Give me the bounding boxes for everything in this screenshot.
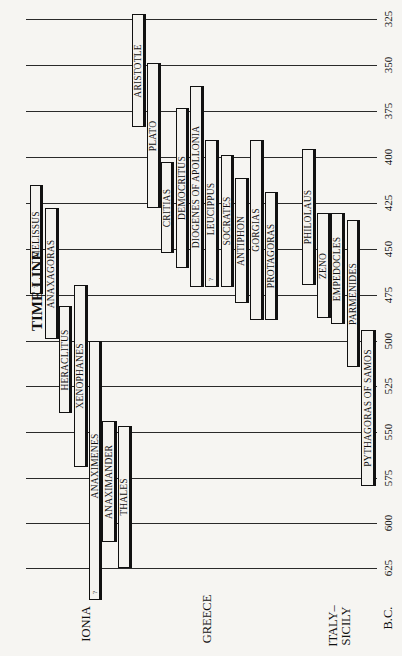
gridline (26, 568, 377, 569)
philosopher-bar: GORGIAS (250, 140, 264, 320)
philosopher-name: ANAXIMENES (90, 433, 100, 498)
year-tick-label: 550 (381, 417, 395, 447)
gridline (26, 523, 377, 524)
axis-unit-label: B.C. (382, 603, 396, 633)
year-tick-label: 475 (381, 280, 395, 310)
philosopher-bar: PLATO (147, 63, 161, 208)
philosopher-bar: PARMENIDES (347, 220, 360, 367)
philosopher-name: PARMENIDES (348, 263, 358, 325)
philosopher-name: PHILOLAUS (303, 190, 313, 245)
philosopher-bar: ARISTOTLE (132, 14, 146, 127)
philosopher-name: ARISTOTLE (133, 44, 143, 97)
philosopher-bar: HERACLITUS (59, 306, 72, 413)
philosopher-bar: DIOGENES OF APOLLONIA (190, 86, 204, 287)
philosopher-name: CRITIAS (162, 188, 172, 226)
gridline (26, 19, 377, 20)
gridline (26, 478, 377, 479)
year-tick-label: 500 (381, 326, 395, 356)
year-tick-label: 525 (381, 371, 395, 401)
philosopher-bar: DEMOCRITUS (176, 108, 189, 268)
philosopher-name: ANTIPHON (236, 215, 246, 265)
philosopher-name: PROTAGORAS (266, 224, 276, 289)
year-tick-label: 400 (381, 142, 395, 172)
philosopher-name: GORGIAS (251, 208, 261, 252)
philosopher-name: SOCRATES (222, 196, 232, 245)
philosopher-name: THALES (119, 478, 129, 516)
year-tick-label: 425 (381, 188, 395, 218)
philosopher-bar: THALES (118, 426, 132, 568)
philosopher-bar: CRITIAS (161, 162, 174, 253)
region-label-ionia: IONIA (80, 599, 94, 649)
philosopher-bar: PROTAGORAS (265, 192, 278, 320)
philosopher-name: ZENO (318, 252, 328, 278)
philosopher-bar: ANAXAGORAS (45, 208, 59, 339)
philosopher-name: DIOGENES OF APOLLONIA (191, 125, 201, 247)
region-label-greece: GREECE (201, 591, 215, 647)
philosopher-bar: PYTHAGORAS OF SAMOS (361, 330, 376, 486)
year-tick-label: 350 (381, 50, 395, 80)
timeline-diagram: 325350375400425450475500525550575600625 … (0, 0, 402, 656)
year-tick-label: 575 (381, 463, 395, 493)
philosopher-name: DEMOCRITUS (177, 156, 187, 220)
gridline (26, 65, 377, 66)
philosopher-bar: ANAXIMANDER (102, 421, 117, 542)
region-label-italy-sicily: ITALY– SICILY (327, 598, 355, 654)
year-tick-label: 625 (381, 553, 395, 583)
philosopher-name: XENOPHANES (75, 343, 85, 408)
year-tick-label: 450 (381, 234, 395, 264)
philosopher-name: PLATO (148, 120, 158, 150)
uncertain-date-marker: ? (208, 278, 215, 281)
philosopher-name: ANAXIMANDER (104, 445, 114, 519)
philosopher-name: EMPEDOCLES (332, 236, 342, 300)
philosopher-name: LEUCIPPUS (206, 182, 216, 234)
philosopher-bar: SOCRATES (221, 155, 234, 287)
year-tick-label: 600 (381, 508, 395, 538)
philosopher-name: HERACLITUS (60, 329, 70, 390)
philosopher-name: ANAXAGORAS (46, 239, 56, 308)
region-label-sicily: SICILY (340, 598, 353, 654)
philosopher-bar: LEUCIPPUS? (205, 140, 219, 287)
diagram-title: TIME LINE (29, 251, 47, 331)
philosopher-bar: XENOPHANES (74, 285, 88, 467)
philosopher-bar: ANTIPHON (235, 178, 249, 303)
philosopher-bar: ANAXIMENES? (89, 341, 102, 600)
year-tick-label: 325 (381, 4, 395, 34)
philosopher-bar: ZENO (317, 213, 331, 318)
year-tick-label: 375 (381, 96, 395, 126)
philosopher-bar: PHILOLAUS (302, 149, 316, 285)
philosopher-name: PYTHAGORAS OF SAMOS (363, 349, 373, 466)
philosopher-bar: EMPEDOCLES (331, 213, 345, 324)
uncertain-date-marker: ? (91, 591, 98, 594)
